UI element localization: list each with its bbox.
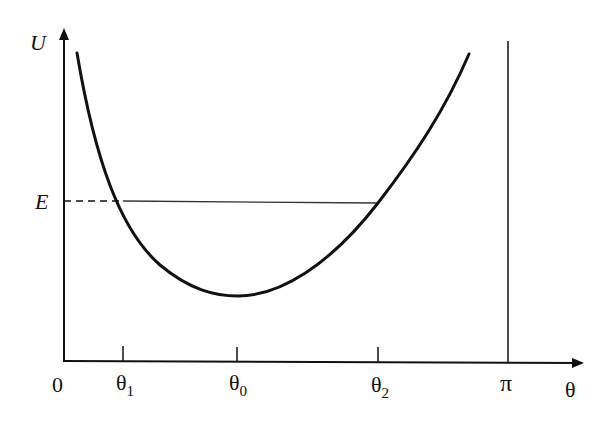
- x-axis-label: θ: [565, 377, 576, 402]
- x-tick-label-0: 0: [52, 372, 63, 397]
- x-tick-label-theta1: θ1: [116, 370, 134, 399]
- x-axis: [63, 361, 582, 363]
- x-tick-label-theta2: θ2: [371, 372, 389, 401]
- energy-level-line: [123, 201, 378, 203]
- x-tick-label-theta0: θ0: [229, 370, 247, 399]
- potential-curve: [77, 53, 469, 296]
- potential-well-diagram: U E 0 θ1 θ0 θ2 π θ: [0, 0, 612, 422]
- y-axis-label: U: [30, 30, 48, 55]
- energy-label: E: [34, 189, 49, 214]
- x-tick-label-pi: π: [500, 370, 512, 396]
